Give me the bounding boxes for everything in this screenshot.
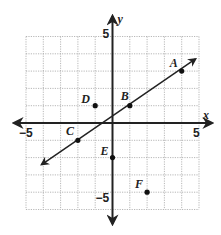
point-label-d: D bbox=[80, 92, 90, 106]
point-label-b: B bbox=[120, 89, 129, 103]
point-label-e: E bbox=[100, 144, 109, 158]
point-c bbox=[75, 138, 80, 143]
x-axis-label: x bbox=[202, 108, 209, 122]
point-d bbox=[93, 103, 98, 108]
point-label-a: A bbox=[169, 56, 178, 70]
points-layer: ABCDEF bbox=[66, 56, 184, 195]
x-min-tick-label: −5 bbox=[19, 126, 33, 140]
point-b bbox=[127, 103, 132, 108]
y-max-tick-label: 5 bbox=[103, 27, 110, 41]
point-label-f: F bbox=[134, 177, 143, 191]
coordinate-plane: x y −5 5 −5 5 ABCDEF bbox=[0, 0, 221, 235]
line-through-a-b-c bbox=[42, 59, 196, 165]
x-max-tick-label: 5 bbox=[193, 126, 200, 140]
y-min-tick-label: −5 bbox=[96, 191, 110, 205]
point-label-c: C bbox=[66, 124, 75, 138]
point-f bbox=[145, 190, 150, 195]
point-e bbox=[110, 155, 115, 160]
y-axis-label: y bbox=[116, 12, 124, 26]
point-a bbox=[179, 69, 184, 74]
